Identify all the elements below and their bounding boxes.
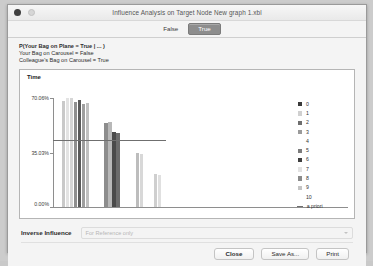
y-tick-bottom (50, 207, 53, 208)
legend-item: 1 (298, 109, 344, 118)
legend-swatch-icon (298, 167, 302, 171)
inverse-influence-select[interactable]: For Reference only (81, 227, 353, 239)
legend-swatch-icon (298, 121, 302, 125)
query-line-evidence-2: Colleague's Bag on Carousel = True (19, 57, 357, 64)
chevron-down-icon (344, 232, 348, 234)
legend-item: 8 (298, 174, 344, 183)
legend-item: 7 (298, 165, 344, 174)
chart-bar (108, 122, 111, 207)
legend-label: 0 (306, 102, 309, 107)
chart-bars (55, 98, 167, 207)
legend-label: 3 (306, 130, 309, 135)
legend-item: 5 (298, 146, 344, 155)
legend-swatch-icon (298, 130, 302, 134)
chart-bar (78, 100, 81, 207)
legend-swatch-icon (298, 139, 302, 143)
legend-item: 4 (298, 137, 344, 146)
chart-bar (104, 123, 107, 207)
y-tick-mid (50, 153, 53, 154)
legend-label: 8 (306, 176, 309, 181)
state-tab-bar: False True (8, 21, 366, 38)
window-content: P(Your Bag on Plane = True | ... ) Your … (8, 38, 366, 266)
y-axis (53, 98, 54, 208)
legend-item: 10 (298, 193, 344, 202)
legend-swatch-icon (298, 102, 302, 106)
legend-item: 0 (298, 100, 344, 109)
legend-swatch-icon (298, 186, 302, 190)
legend-item: 6 (298, 155, 344, 164)
legend-swatch-icon (298, 111, 302, 115)
chart-title: Time (27, 74, 41, 80)
chart-bar (158, 175, 161, 207)
bar-group (154, 98, 161, 207)
legend-label: 2 (306, 120, 309, 125)
y-tick-label-bottom: 0.00% (34, 201, 49, 207)
bar-group (136, 98, 143, 207)
legend-swatch-icon (298, 176, 302, 180)
close-button[interactable]: Close (214, 248, 255, 261)
print-button[interactable]: Print (316, 248, 349, 261)
bar-group (62, 98, 89, 207)
legend-label: 4 (306, 139, 309, 144)
legend-item: 3 (298, 128, 344, 137)
legend-item: 9 (298, 183, 344, 192)
influence-analysis-window: Influence Analysis on Target Node New gr… (7, 4, 367, 253)
chart-bar (74, 102, 77, 207)
chart-bar (116, 133, 119, 207)
inverse-influence-label: Inverse Influence (21, 229, 72, 236)
chart-bar (70, 98, 73, 207)
y-tick-top (50, 98, 53, 99)
legend-label: 6 (306, 157, 309, 162)
bar-group (104, 98, 119, 207)
legend-item: 2 (298, 118, 344, 127)
legend-swatch-icon (298, 149, 302, 153)
dialog-footer: Close Save As... Print (17, 243, 357, 266)
query-line-evidence-1: Your Bag on Carousel = False (19, 50, 357, 57)
query-description: P(Your Bag on Plane = True | ... ) Your … (19, 43, 357, 65)
legend-label: 9 (306, 185, 309, 190)
chart-bar (62, 101, 65, 207)
window-title-bar[interactable]: Influence Analysis on Target Node New gr… (8, 5, 366, 21)
tab-true[interactable]: True (188, 23, 221, 34)
legend-label-a-priori: a priori (307, 204, 323, 209)
inverse-influence-row: Inverse Influence For Reference only (21, 227, 353, 243)
y-tick-label-mid: 35.03% (31, 150, 49, 156)
legend-swatch-icon (298, 158, 302, 162)
window-controls (14, 9, 35, 16)
legend-label: 10 (306, 195, 312, 200)
influence-chart: Time 70.06% 35.03% 0.00% (19, 69, 355, 219)
chart-bar (86, 103, 89, 206)
chart-bar (136, 153, 139, 207)
chart-bar (140, 154, 143, 207)
chart-bar (112, 132, 115, 207)
y-tick-label-top: 70.06% (31, 95, 49, 101)
window-title: Influence Analysis on Target Node New gr… (8, 9, 366, 16)
save-as-button[interactable]: Save As... (261, 248, 309, 261)
legend-swatch-icon (298, 195, 302, 199)
minimize-window-icon[interactable] (28, 9, 35, 16)
chart-bar (66, 98, 69, 206)
legend-item-a-priori: a priori (298, 202, 344, 211)
legend-label: 1 (306, 111, 309, 116)
legend-label: 5 (306, 148, 309, 153)
inverse-influence-placeholder: For Reference only (86, 230, 134, 236)
close-window-icon[interactable] (14, 9, 21, 16)
a-priori-reference-line (53, 140, 166, 141)
chart-bar (82, 104, 85, 207)
legend-line-icon (297, 206, 303, 207)
tab-false[interactable]: False (153, 23, 188, 34)
query-line-probability: P(Your Bag on Plane = True | ... ) (19, 43, 357, 50)
chart-legend: 012345678910a priori (298, 100, 344, 212)
legend-label: 7 (306, 167, 309, 172)
chart-bar (154, 174, 157, 207)
